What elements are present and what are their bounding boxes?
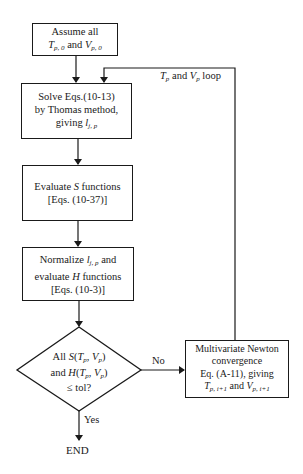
newton-line-1: Multivariate Newton [195,343,279,356]
loop-label: Tp and Vp loop [160,70,221,83]
end-label: END [66,444,89,456]
yes-label: Yes [84,414,99,425]
normalize-line-2: evaluate H functions [35,270,122,283]
decision-text: All S(Tp, Vp) and H(Tp, Vp) ≤ tol? [29,351,129,395]
newton-box: Multivariate Newton convergence Eq. (A-1… [185,340,289,398]
evaluate-line-2: [Eqs. (10-37)] [48,193,107,206]
solve-box: Solve Eqs.(10-13) by Thomas method, givi… [21,83,132,139]
normalize-line-3: [Eqs. (10-3)] [51,283,105,296]
newton-line-3: Eq. (A-11), giving [200,368,274,381]
connector-lines [0,0,303,474]
decision-line-2: and H(Tp, Vp) [29,367,129,383]
decision-line-1: All S(Tp, Vp) [29,351,129,367]
evaluate-s-box: Evaluate S functions [Eqs. (10-37)] [22,165,133,221]
assume-box: Assume all Tp, 0 and Vp, 0 [32,23,118,56]
normalize-box: Normalize lj, p and evaluate H functions… [22,247,134,301]
evaluate-line-1: Evaluate S functions [34,180,120,193]
normalize-line-1: Normalize lj, p and [40,253,117,270]
solve-line-2: by Thomas method, [35,103,119,116]
newton-line-4: Tp, i+1 and Vp, i+1 [204,380,269,396]
solve-line-3: giving lj, p [56,116,97,133]
decision-line-3: ≤ tol? [29,382,129,395]
no-label: No [152,355,165,366]
solve-line-1: Solve Eqs.(10-13) [38,90,114,103]
newton-line-2: convergence [212,355,262,368]
assume-line-2: Tp, 0 and Vp, 0 [48,38,102,55]
assume-line-1: Assume all [52,25,99,38]
